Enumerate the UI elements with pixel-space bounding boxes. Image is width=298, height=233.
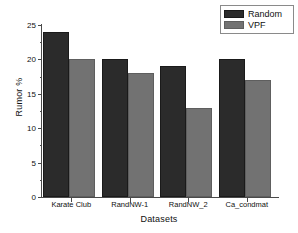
y-tick-label: 10 — [27, 124, 36, 133]
y-axis-ticks: 0510152025 — [0, 0, 42, 233]
y-tick-label: 0 — [32, 193, 36, 202]
x-tick-label: Ca_condmat — [225, 200, 268, 209]
legend-swatch-vpf-icon — [224, 21, 244, 29]
bar-random-3 — [219, 59, 245, 197]
y-tick-label: 20 — [27, 55, 36, 64]
bar-random-2 — [160, 66, 186, 197]
plot-area — [42, 25, 276, 197]
x-tick-label: RandNW_2 — [169, 200, 208, 209]
bar-random-0 — [43, 32, 69, 197]
bar-vpf-3 — [245, 80, 271, 197]
bar-vpf-0 — [69, 59, 95, 197]
legend-label-random: Random — [248, 9, 282, 19]
bar-vpf-1 — [128, 73, 154, 197]
x-tick-label: RandNW-1 — [111, 200, 148, 209]
y-tick-label: 15 — [27, 89, 36, 98]
legend: Random VPF — [220, 5, 294, 34]
legend-label-vpf: VPF — [248, 20, 266, 30]
x-axis-line — [41, 197, 279, 198]
bar-chart-figure: Rumor % 0510152025 Datasets Random VPF K… — [0, 0, 298, 233]
y-tick-label: 25 — [27, 21, 36, 30]
x-tick-label: Karate Club — [51, 200, 91, 209]
x-axis-title: Datasets — [42, 214, 276, 224]
legend-item-random[interactable]: Random — [224, 8, 290, 19]
bar-vpf-2 — [186, 108, 212, 197]
legend-swatch-random-icon — [224, 10, 244, 18]
bar-random-1 — [102, 59, 128, 197]
y-tick-label: 5 — [32, 158, 36, 167]
legend-item-vpf[interactable]: VPF — [224, 19, 290, 30]
